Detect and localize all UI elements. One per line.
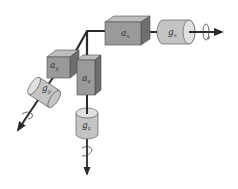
accelerometer-x: ax (105, 16, 150, 45)
gyroscope-x: gx (157, 20, 195, 44)
imu-diagram: ax gx ay gy az (0, 0, 238, 189)
accelerometer-y: ay (47, 50, 79, 78)
gyroscope-z: gz (76, 108, 98, 139)
accelerometer-z: az (77, 55, 101, 95)
